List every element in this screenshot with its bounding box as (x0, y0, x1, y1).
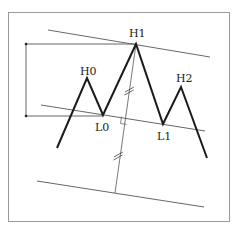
label-l1: L1 (157, 130, 171, 143)
price-path (57, 44, 207, 158)
label-l0: L0 (95, 121, 109, 134)
equal-mark-lower (114, 152, 124, 160)
lower-projected-line (37, 181, 204, 207)
diagram-canvas: H0 H1 H2 L0 L1 (0, 0, 238, 227)
bracket-bottom-dot (25, 115, 28, 118)
label-h0: H0 (80, 65, 97, 78)
bracket-top-dot (25, 43, 28, 46)
label-h2: H2 (176, 72, 193, 85)
label-h1: H1 (129, 27, 146, 40)
